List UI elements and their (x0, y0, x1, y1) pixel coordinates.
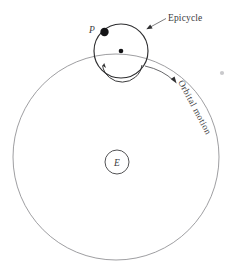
diagram-canvas: P E Epicycle Orbital motion (0, 0, 243, 275)
epicycle-leader-line (150, 19, 167, 28)
epicycle-diagram-figure: P E Epicycle Orbital motion (0, 0, 243, 275)
orbital-motion-label: Orbital motion (176, 78, 213, 136)
orbital-motion-arc (145, 66, 174, 81)
epicycle-leader-arrowhead (146, 24, 152, 29)
planet-dot (100, 28, 108, 36)
epicycle-center-dot (119, 49, 124, 54)
orbital-motion-arrowhead (171, 76, 177, 83)
scan-speck-artifact (220, 71, 224, 75)
earth-label: E (113, 158, 120, 168)
planet-label: P (88, 25, 95, 35)
epicycle-label: Epicycle (168, 13, 202, 23)
